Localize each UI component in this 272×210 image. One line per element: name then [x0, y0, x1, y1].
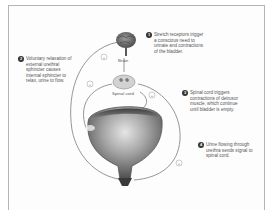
step-number-badge: 3 [182, 90, 188, 96]
step-number-badge: 2 [18, 56, 24, 62]
plus-sign-icon: + [87, 81, 93, 87]
spinal-cord-icon [113, 75, 135, 89]
step-text: Stretch receptors trigger a conscious ne… [154, 32, 203, 54]
plus-sign-icon: + [176, 160, 182, 166]
step-text: Spinal cord triggers contractions of det… [190, 90, 238, 112]
plus-sign-icon: + [101, 54, 107, 60]
spinal-cord-label: Spinal cord [112, 91, 134, 96]
step-3-caption: 3 Spinal cord triggers contractions of d… [190, 90, 240, 112]
step-text: Voluntary relaxation of external urethra… [26, 56, 71, 83]
brain-label: Brain [118, 58, 128, 63]
step-1-caption: 1 Stretch receptors trigger a conscious … [154, 32, 204, 54]
step-number-badge: 4 [198, 142, 204, 148]
bladder-icon [85, 107, 162, 186]
step-number-badge: 1 [146, 32, 152, 38]
brain-icon [116, 32, 136, 56]
step-text: Urine flowing through urethra sends sign… [206, 142, 252, 158]
urethra-sphincter [118, 178, 132, 186]
plus-sign-icon: + [149, 92, 155, 98]
step-2-caption: 2 Voluntary relaxation of external ureth… [26, 56, 76, 84]
step-4-caption: 4 Urine flowing through urethra sends si… [206, 142, 258, 159]
